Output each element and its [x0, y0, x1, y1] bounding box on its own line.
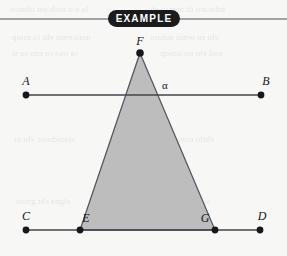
point-dot-c: [23, 227, 30, 234]
point-dot-b: [258, 92, 265, 99]
geometry-figure: la o u noth ien ttbarusmlocaro di mer to…: [0, 0, 287, 256]
point-dot-g: [212, 227, 219, 234]
triangle-feg: [80, 53, 215, 230]
point-dot-e: [77, 227, 84, 234]
point-label-d: D: [257, 209, 267, 223]
point-label-f: F: [135, 34, 144, 48]
point-label-g: G: [201, 211, 210, 225]
point-dot-f: [136, 49, 144, 57]
point-label-a: A: [21, 74, 30, 88]
diagram-canvas: A B C D E F G α: [0, 0, 287, 256]
point-label-b: B: [262, 74, 270, 88]
point-dot-a: [23, 92, 30, 99]
point-label-c: C: [22, 209, 31, 223]
point-dot-d: [257, 227, 264, 234]
example-badge: EXAMPLE: [108, 10, 180, 27]
example-badge-label: EXAMPLE: [116, 13, 173, 24]
point-label-e: E: [81, 211, 90, 225]
angle-label-alpha: α: [162, 79, 168, 91]
